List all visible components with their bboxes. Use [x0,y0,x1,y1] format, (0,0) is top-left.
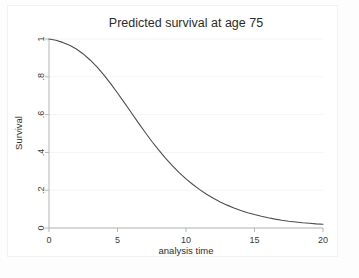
x-axis-ticks [49,228,323,232]
y-axis-ticks [45,39,49,228]
x-axis-tick-labels: 05101520 [46,235,328,245]
survival-chart: 0.2.4.6.81 05101520 analysis time Surviv… [8,6,337,256]
y-tick-label: .2 [36,186,46,194]
x-tick-label: 0 [46,235,51,245]
y-tick-label: 1 [36,36,46,41]
x-tick-label: 5 [115,235,120,245]
figure-canvas: 0.2.4.6.81 05101520 analysis time Surviv… [0,0,359,278]
chart-title: Predicted survival at age 75 [109,16,263,30]
x-tick-label: 20 [318,235,328,245]
survival-curve-line [49,39,323,224]
x-tick-label: 10 [181,235,191,245]
y-tick-label: 0 [36,225,46,230]
y-axis-tick-labels: 0.2.4.6.81 [36,36,46,230]
y-tick-label: .4 [36,149,46,157]
x-tick-label: 15 [249,235,259,245]
y-tick-label: .6 [36,111,46,119]
y-axis-title: Survival [13,116,24,150]
x-axis-title: analysis time [159,245,214,256]
graph-region: 0.2.4.6.81 05101520 analysis time Surviv… [7,5,338,257]
y-tick-label: .8 [36,73,46,81]
y-gridlines [49,39,323,228]
